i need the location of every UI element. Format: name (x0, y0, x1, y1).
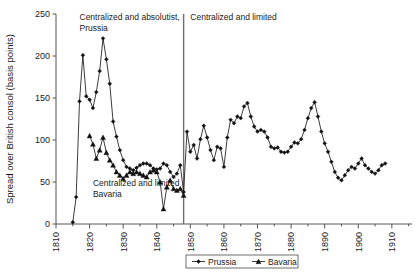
legend-label-prussia: Prussia (208, 257, 237, 267)
data-point-marker-diamond (272, 146, 276, 150)
chart-container: 050100150200250Spread over British conso… (0, 0, 420, 274)
annotation-prussia-absolutist-line2: Prussia (80, 23, 109, 33)
data-point-marker-diamond (326, 150, 330, 154)
x-tick-label-1890: 1890 (320, 232, 330, 252)
x-tick-label-1880: 1880 (286, 232, 296, 252)
data-point-marker-diamond (178, 163, 182, 167)
data-point-marker-diamond (209, 148, 213, 152)
data-point-marker-diamond (313, 100, 317, 104)
data-point-marker-diamond (74, 195, 78, 199)
data-point-marker-diamond (235, 115, 239, 119)
data-point-marker-diamond (205, 136, 209, 140)
data-point-marker-diamond (111, 120, 115, 124)
x-tick-label-1850: 1850 (186, 232, 196, 252)
data-point-marker-diamond (81, 53, 85, 57)
y-tick-label-100: 100 (35, 135, 50, 145)
annotation-prussia-absolutist-line1: Centralized and absolutist, (80, 12, 180, 22)
data-point-marker-diamond (104, 57, 108, 61)
spread-over-british-consol-line-chart: 050100150200250Spread over British conso… (0, 0, 420, 274)
data-point-marker-diamond (225, 136, 229, 140)
data-point-marker-diamond (195, 157, 199, 161)
data-point-marker-diamond (125, 165, 129, 169)
y-tick-label-50: 50 (40, 177, 50, 187)
data-point-marker-diamond (333, 170, 337, 174)
data-point-marker-diamond (309, 106, 313, 110)
annotation-bavaria-limited-line2: Bavaria (93, 189, 122, 199)
data-point-marker-diamond (108, 82, 112, 86)
data-point-marker-diamond (101, 36, 105, 40)
data-point-marker-diamond (145, 162, 149, 166)
data-point-marker-diamond (383, 162, 387, 166)
x-tick-label-1910: 1910 (387, 232, 397, 252)
data-point-marker-diamond (185, 130, 189, 134)
data-point-marker-diamond (91, 106, 95, 110)
data-point-marker-diamond (219, 146, 223, 150)
x-tick-label-1860: 1860 (219, 232, 229, 252)
data-point-marker-diamond (306, 116, 310, 120)
data-point-marker-diamond (222, 165, 226, 169)
x-tick-label-1810: 1810 (51, 232, 61, 252)
data-point-marker-triangle (90, 142, 95, 147)
data-point-marker-diamond (98, 69, 102, 73)
data-point-marker-diamond (239, 116, 243, 120)
y-axis-title: Spread over British consol (basis points… (4, 34, 15, 204)
data-point-marker-diamond (319, 130, 323, 134)
annotation-bavaria-limited-line1: Centralized and limited (93, 178, 180, 188)
data-point-marker-triangle (161, 206, 166, 211)
data-point-marker-diamond (118, 148, 122, 152)
data-point-marker-diamond (249, 115, 253, 119)
data-point-marker-diamond (316, 115, 320, 119)
legend-label-bavaria: Bavaria (268, 257, 297, 267)
data-point-marker-diamond (115, 135, 119, 139)
data-point-marker-diamond (282, 151, 286, 155)
data-point-marker-triangle (107, 158, 112, 163)
x-tick-label-1870: 1870 (253, 232, 263, 252)
data-point-marker-diamond (165, 163, 169, 167)
y-tick-label-150: 150 (35, 93, 50, 103)
data-point-marker-diamond (212, 158, 216, 162)
data-point-marker-diamond (78, 99, 82, 103)
data-point-marker-diamond (215, 145, 219, 149)
data-point-marker-diamond (188, 150, 192, 154)
data-point-marker-diamond (269, 145, 273, 149)
annotation-centralized-limited-right: Centralized and limited (190, 12, 277, 22)
data-point-marker-diamond (192, 143, 196, 147)
x-tick-label-1900: 1900 (354, 232, 364, 252)
data-point-marker-diamond (329, 160, 333, 164)
data-point-marker-triangle (114, 169, 119, 174)
data-point-marker-diamond (202, 124, 206, 128)
y-tick-label-0: 0 (45, 219, 50, 229)
data-point-marker-diamond (198, 137, 202, 141)
data-point-marker-triangle (97, 148, 102, 153)
x-tick-label-1830: 1830 (119, 232, 129, 252)
data-point-marker-diamond (262, 130, 266, 134)
data-point-marker-triangle (181, 193, 186, 198)
chart-legend[interactable]: PrussiaBavaria (186, 255, 298, 268)
data-point-marker-triangle (101, 135, 106, 140)
data-point-marker-diamond (323, 141, 327, 145)
x-tick-label-1820: 1820 (85, 232, 95, 252)
y-tick-label-200: 200 (35, 51, 50, 61)
data-point-marker-diamond (94, 90, 98, 94)
annotation-centralized-limited-right-line1: Centralized and limited (190, 12, 277, 22)
annotation-prussia-absolutist: Centralized and absolutist,Prussia (80, 12, 180, 33)
data-point-marker-diamond (259, 128, 263, 132)
data-point-marker-triangle (111, 163, 116, 168)
y-tick-label-250: 250 (35, 9, 50, 19)
data-point-marker-triangle (87, 133, 92, 138)
data-point-marker-triangle (94, 156, 99, 161)
data-point-marker-diamond (121, 158, 125, 162)
data-point-marker-diamond (303, 128, 307, 132)
x-tick-label-1840: 1840 (152, 232, 162, 252)
data-point-marker-triangle (104, 150, 109, 155)
data-point-marker-diamond (266, 136, 270, 140)
